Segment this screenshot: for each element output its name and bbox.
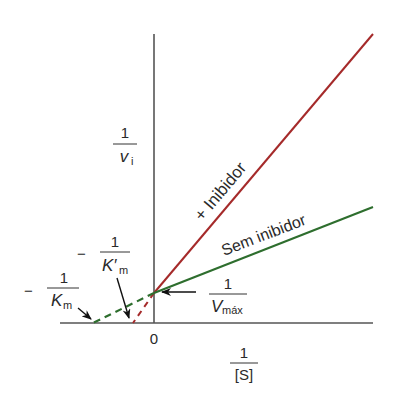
no-inhibitor-line-label: Sem inibidor (219, 211, 309, 259)
vmax-numerator: 1 (224, 275, 232, 292)
km-minus-sign: − (24, 282, 33, 299)
km-arrow-icon (78, 308, 91, 319)
x-axis-label: 1 [S] (230, 344, 258, 383)
y-label-denominator: v (120, 147, 130, 166)
lineweaver-burk-chart: 1 v i 0 1 [S] + Inibidor Sem inibidor 1 … (0, 0, 397, 398)
km-annotation: − 1 K m (24, 269, 91, 319)
x-label-numerator: 1 (240, 344, 248, 361)
kmp-subscript: m (119, 264, 128, 276)
km-denominator: K (51, 291, 63, 310)
kmp-annotation: − 1 K′ m (77, 233, 130, 318)
kmp-minus-sign: − (77, 245, 86, 262)
origin-label: 0 (150, 330, 158, 347)
vmax-subscript: máx (222, 304, 243, 316)
inhibitor-line (154, 34, 373, 293)
y-axis-label: 1 v i (113, 124, 137, 167)
y-label-subscript: i (131, 155, 133, 167)
kmp-arrow-icon (117, 278, 129, 318)
kmp-numerator: 1 (111, 233, 119, 250)
y-label-numerator: 1 (121, 124, 129, 141)
km-numerator: 1 (60, 269, 68, 286)
inhibitor-line-extrapolated (133, 293, 154, 323)
kmp-denominator: K′ (102, 256, 117, 275)
no-inhibitor-line (154, 207, 373, 293)
x-label-denominator: [S] (235, 366, 253, 383)
vmax-annotation: 1 V máx (162, 275, 247, 316)
km-subscript: m (63, 299, 72, 311)
